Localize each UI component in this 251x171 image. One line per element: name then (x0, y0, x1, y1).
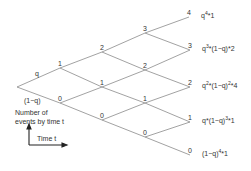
leaf-probability: q*(1−q)3*1 (202, 117, 235, 125)
tree-edge (102, 52, 145, 70)
leaf-probability: q4*1 (201, 12, 214, 20)
tree-edge (60, 52, 102, 68)
tree-edge (145, 17, 189, 33)
node-count-label: 0 (188, 147, 192, 155)
leaf-probability: q3*(1−q)*2 (202, 45, 235, 53)
tree-edge (145, 87, 190, 103)
leaf-probability: q2*(1−q)2*4 (202, 82, 237, 90)
node-count-label: 3 (188, 42, 192, 50)
node-count-label: 0 (143, 129, 147, 137)
tree-edge (102, 70, 145, 87)
tree-edge (102, 103, 145, 120)
node-count-label: 2 (143, 62, 147, 70)
node-count-label: 1 (100, 79, 104, 87)
tree-edge (145, 137, 190, 155)
y-axis-legend-label: Number of events by time t (15, 108, 64, 126)
branch-label-q: q (35, 70, 39, 78)
node-count-label: 1 (188, 114, 192, 122)
node-count-label: 2 (188, 79, 192, 87)
tree-edge (145, 122, 190, 137)
y-axis-label-line1: Number of (15, 108, 64, 117)
tree-edge (102, 87, 145, 103)
tree-edge (60, 68, 102, 87)
node-count-label: 0 (100, 112, 104, 120)
tree-edge (145, 50, 190, 70)
branch-label-one-minus-q: (1−q) (24, 97, 41, 105)
y-axis-label-line2: events by time t (15, 117, 64, 126)
tree-edge (145, 33, 190, 50)
node-count-label: 4 (187, 9, 191, 17)
tree-edge (60, 103, 102, 120)
tree-edge (60, 87, 102, 103)
tree-edge (102, 33, 145, 52)
leaf-probability: (1−q)4*1 (202, 150, 228, 158)
node-count-label: 1 (58, 60, 62, 68)
node-count-label: 3 (143, 25, 147, 33)
node-count-label: 1 (143, 95, 147, 103)
tree-edge (145, 103, 190, 122)
tree-edge (145, 70, 190, 87)
tree-edge (102, 120, 145, 137)
node-count-label: 0 (58, 95, 62, 103)
node-count-label: 2 (100, 44, 104, 52)
x-axis-legend-label: Time t (37, 134, 56, 143)
